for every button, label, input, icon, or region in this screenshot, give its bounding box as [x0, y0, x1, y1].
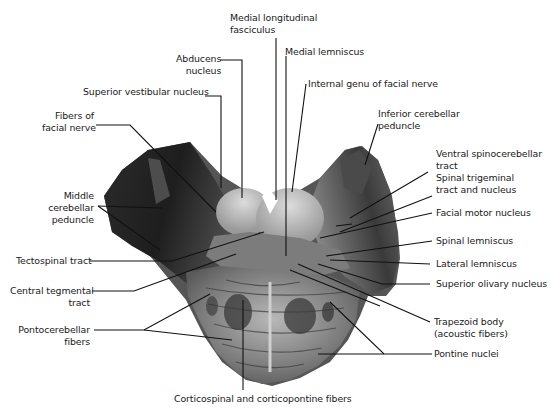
label-abducens-nucleus: Abducens nucleus [176, 53, 221, 77]
label-internal-genu-facial-nerve: Internal genu of facial nerve [308, 78, 438, 90]
label-fibers-of-facial-nerve: Fibers of facial nerve [42, 110, 94, 134]
label-trapezoid-body: Trapezoid body (acoustic fibers) [434, 316, 508, 340]
label-spinal-lemniscus: Spinal lemniscus [436, 235, 513, 247]
label-medial-lemniscus: Medial lemniscus [285, 46, 364, 58]
label-spinal-trigeminal-tract-nucleus: Spinal trigeminal tract and nucleus [436, 172, 516, 196]
label-facial-motor-nucleus: Facial motor nucleus [436, 207, 531, 219]
label-lateral-lemniscus: Lateral lemniscus [436, 258, 517, 270]
label-inferior-cerebellar-peduncle: Inferior cerebellar peduncle [378, 108, 460, 132]
label-medial-longitudinal-fasciculus: Medial longitudinal fasciculus [230, 12, 317, 36]
pons-section-figure: Medial longitudinal fasciculus Abducens … [0, 0, 551, 414]
label-pontocerebellar-fibers: Pontocerebellar fibers [16, 324, 90, 348]
label-superior-olivary-nucleus: Superior olivary nucleus [436, 278, 547, 290]
label-superior-vestibular-nucleus: Superior vestibular nucleus [83, 86, 209, 98]
label-ventral-spinocerebellar-tract: Ventral spinocerebellar tract [436, 148, 542, 172]
label-central-tegmental-tract: Central tegmental tract [10, 285, 90, 309]
label-tectospinal-tract: Tectospinal tract [16, 255, 92, 267]
label-pontine-nuclei: Pontine nuclei [434, 348, 499, 360]
label-corticospinal-corticopontine-fibers: Corticospinal and corticopontine fibers [174, 393, 352, 405]
label-middle-cerebellar-peduncle: Middle cerebellar peduncle [40, 190, 94, 226]
